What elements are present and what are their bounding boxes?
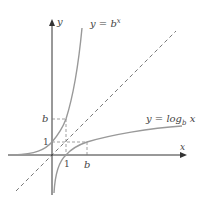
identity-line: [16, 31, 176, 191]
log-curve: [54, 126, 182, 193]
x-axis-label: x: [180, 142, 185, 152]
x-tick-b: b: [84, 159, 90, 170]
y-axis-arrow-icon: [49, 19, 55, 26]
exp-curve: [14, 28, 82, 155]
x-axis-arrow-icon: [180, 152, 187, 158]
y-tick-1: 1: [43, 137, 49, 147]
log-curve-label: y = logb x: [145, 113, 196, 127]
y-axis-label: y: [56, 16, 63, 27]
y-tick-b: b: [42, 113, 48, 124]
exp-log-diagram: y x y = bx y = logb x 1 b 1 b: [0, 0, 202, 201]
exp-curve-label: y = bx: [89, 17, 121, 29]
x-tick-1: 1: [64, 159, 70, 169]
